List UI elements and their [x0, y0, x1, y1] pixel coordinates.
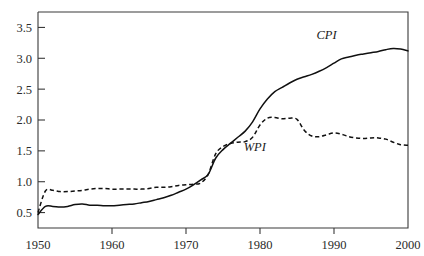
chart-figure: 0.51.01.52.02.53.03.5 195019601970198019… [0, 0, 424, 256]
x-tick-label: 1980 [248, 238, 273, 252]
x-tick-label: 1950 [26, 238, 51, 252]
chart-axes [38, 12, 408, 228]
series-annotations: CPIWPI [244, 28, 338, 154]
axis-ticks [38, 27, 334, 234]
x-tick-label: 1970 [174, 238, 199, 252]
y-tick-label: 1.5 [16, 144, 32, 158]
y-tick-label: 0.5 [16, 206, 32, 220]
y-tick-label: 2.5 [16, 83, 32, 97]
series-label-wpi: WPI [244, 140, 267, 154]
plot-frame [38, 12, 408, 228]
x-tick-label: 1960 [100, 238, 125, 252]
line-chart: 0.51.01.52.02.53.03.5 195019601970198019… [0, 0, 424, 256]
series-label-cpi: CPI [317, 28, 338, 42]
y-axis-tick-labels: 0.51.01.52.02.53.03.5 [16, 21, 32, 220]
x-tick-label: 1990 [322, 238, 347, 252]
x-axis-tick-labels: 195019601970198019902000 [26, 238, 421, 252]
x-tick-label: 2000 [396, 238, 421, 252]
series-line-wpi [38, 117, 408, 212]
data-series-group [38, 48, 408, 214]
y-tick-label: 3.0 [16, 52, 32, 66]
y-tick-label: 2.0 [16, 113, 32, 127]
series-line-cpi [38, 48, 408, 214]
y-tick-label: 1.0 [16, 175, 32, 189]
y-tick-label: 3.5 [16, 21, 32, 35]
